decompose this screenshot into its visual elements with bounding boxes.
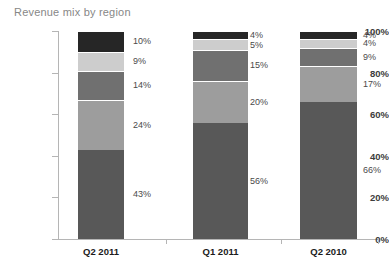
bar-segment[interactable] [300,48,357,67]
bar-segment[interactable] [193,123,248,239]
segment-data-label: 14% [133,80,151,90]
segment-data-label: 43% [133,189,151,199]
bar-segment[interactable] [193,31,248,39]
bar-column[interactable] [78,31,124,239]
segment-data-label: 10% [133,36,151,46]
segment-data-label: 24% [133,120,151,130]
bar-segment[interactable] [193,39,248,49]
chart-title: Revenue mix by region [14,6,131,18]
segment-data-label: 20% [250,97,268,107]
segment-data-label: 56% [250,176,268,186]
y-axis-tick [52,239,58,240]
chart-container: Revenue mix by region 0%20%40%60%80%100%… [0,0,389,270]
segment-data-label: 66% [363,165,381,175]
x-axis-tick [378,239,379,244]
bar-column[interactable] [193,31,248,239]
plot-area [58,31,378,239]
bar-segment[interactable] [78,150,124,239]
segment-data-label: 5% [250,40,263,50]
bar-segment[interactable] [78,31,124,52]
bar-segment[interactable] [300,66,357,101]
x-axis-category-label: Q2 2011 [83,246,119,257]
bar-segment[interactable] [300,31,357,39]
segment-data-label: 4% [250,30,263,40]
segment-data-label: 4% [363,30,376,40]
x-axis-tick [166,239,167,244]
x-axis-category-label: Q2 2010 [310,246,346,257]
bar-segment[interactable] [300,39,357,47]
segment-data-label: 17% [363,79,381,89]
x-axis-category-label: Q1 2011 [203,246,239,257]
bar-column[interactable] [300,31,357,239]
bar-segment[interactable] [193,81,248,123]
bar-segment[interactable] [300,102,357,239]
x-axis-line [58,239,378,240]
segment-data-label: 15% [250,60,268,70]
bar-segment[interactable] [78,100,124,150]
x-axis-tick [281,239,282,244]
bar-segment[interactable] [78,71,124,100]
bar-segment[interactable] [193,50,248,81]
segment-data-label: 9% [363,52,376,62]
bar-segment[interactable] [78,52,124,71]
segment-data-label: 9% [133,56,146,66]
